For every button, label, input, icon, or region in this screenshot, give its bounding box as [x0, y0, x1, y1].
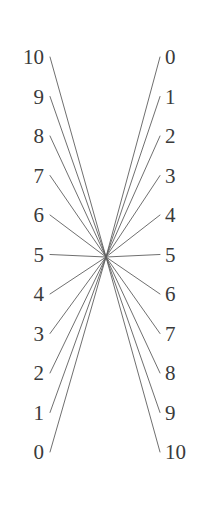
connector-1-9 [50, 257, 160, 413]
connector-9-1 [50, 97, 160, 258]
connector-3-7 [50, 257, 160, 334]
left-axis-tick-label: 6 [0, 205, 44, 226]
connector-0-10 [50, 257, 160, 452]
connector-2-8 [50, 257, 160, 373]
right-axis-tick-label: 8 [165, 363, 207, 384]
right-axis-tick-label: 2 [165, 126, 207, 147]
right-axis-tick-label: 9 [165, 402, 207, 423]
right-axis-tick-label: 6 [165, 284, 207, 305]
connector-8-2 [50, 136, 160, 257]
left-axis-tick-label: 5 [0, 244, 44, 265]
left-axis-tick-label: 9 [0, 86, 44, 107]
connector-4-6 [50, 257, 160, 294]
left-axis-tick-label: 10 [0, 47, 44, 68]
nomogram-figure: 109876543210 012345678910 [0, 0, 207, 509]
left-axis-tick-label: 3 [0, 323, 44, 344]
left-axis-tick-label: 4 [0, 284, 44, 305]
left-axis-tick-label: 8 [0, 126, 44, 147]
right-axis-tick-label: 1 [165, 86, 207, 107]
right-axis-tick-label: 5 [165, 244, 207, 265]
right-axis-tick-label: 4 [165, 205, 207, 226]
right-axis-tick-label: 0 [165, 47, 207, 68]
connector-7-3 [50, 176, 160, 258]
connector-group [50, 57, 160, 452]
left-axis-tick-label: 7 [0, 165, 44, 186]
left-axis-tick-label: 1 [0, 402, 44, 423]
connector-6-4 [50, 215, 160, 257]
right-axis-tick-label: 3 [165, 165, 207, 186]
left-axis-tick-label: 2 [0, 363, 44, 384]
right-axis-tick-label: 7 [165, 323, 207, 344]
left-axis-tick-label: 0 [0, 442, 44, 463]
right-axis-tick-label: 10 [165, 442, 207, 463]
